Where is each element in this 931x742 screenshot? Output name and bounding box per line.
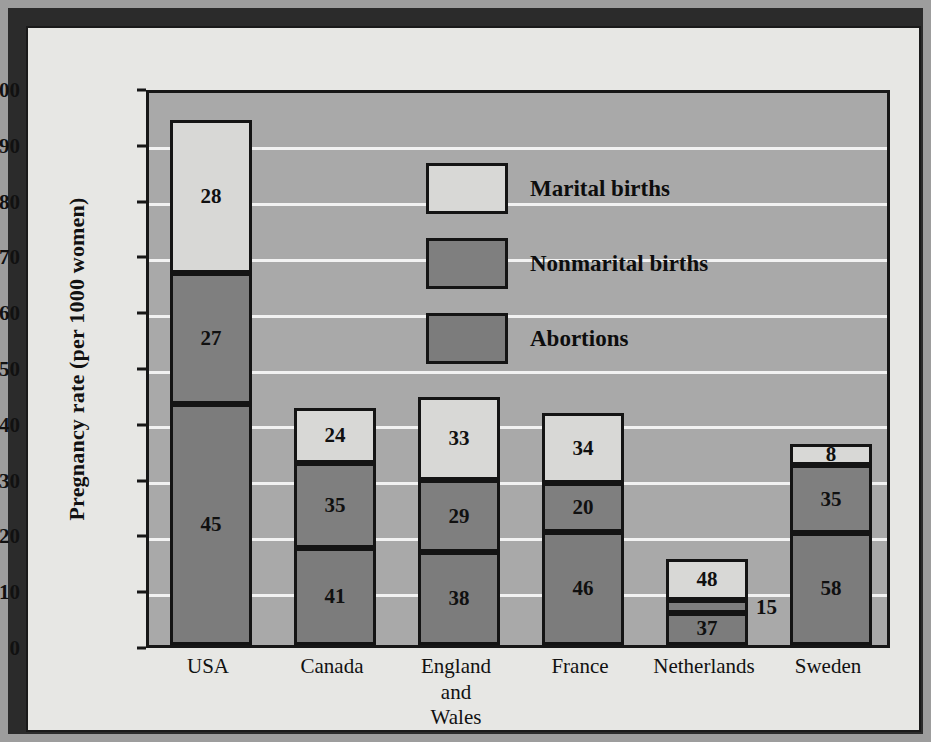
legend-label: Abortions — [530, 326, 628, 352]
y-tick-mark — [137, 200, 146, 203]
bar-segment-nonmarital[interactable]: 35 — [294, 463, 376, 548]
bar-segment-value: 20 — [573, 497, 594, 518]
bar-segment-marital[interactable]: 34 — [542, 413, 624, 483]
bar-segment-value: 41 — [325, 586, 346, 607]
bar-segment-marital[interactable]: 8 — [790, 444, 872, 465]
bar-segment-value: 24 — [325, 425, 346, 446]
bar-segment-value: 28 — [201, 186, 222, 207]
legend-label: Marital births — [530, 176, 670, 202]
legend-item-marital[interactable]: Marital births — [426, 161, 746, 216]
figure-paper: Pregnancy rate (per 1000 women) 01020304… — [26, 26, 921, 732]
y-tick-label: 70 — [0, 245, 20, 270]
bar-segment-value: 34 — [573, 438, 594, 459]
bar-segment-abortions[interactable]: 46 — [542, 532, 624, 645]
y-tick-mark — [137, 368, 146, 371]
bar-segment-value: 38 — [449, 588, 470, 609]
x-axis-label-line: France — [518, 654, 642, 680]
y-tick-label: 60 — [0, 301, 20, 326]
bar-group[interactable]: 58358 — [790, 87, 872, 645]
bar-segment-value: 46 — [573, 578, 594, 599]
x-axis-label: USA — [146, 654, 270, 680]
legend: Marital birthsNonmarital birthsAbortions — [426, 161, 746, 386]
y-tick-mark — [137, 256, 146, 259]
y-tick-mark — [137, 423, 146, 426]
bar-segment-value: 8 — [826, 444, 837, 465]
y-tick-mark — [137, 479, 146, 482]
y-tick-label: 50 — [0, 357, 20, 382]
bar-segment-marital[interactable]: 48 — [666, 559, 748, 600]
bar-segment-nonmarital[interactable]: 29 — [418, 480, 500, 551]
bar-segment-abortions[interactable]: 41 — [294, 548, 376, 645]
y-tick-label: 0 — [10, 636, 21, 661]
bar-segment-value: 35 — [821, 489, 842, 510]
legend-label: Nonmarital births — [530, 251, 708, 277]
plot-area: 45272841352438293346203415374858358 Mari… — [146, 90, 890, 648]
x-axis-label: EnglandandWales — [394, 654, 518, 731]
bar-segment-marital[interactable]: 33 — [418, 397, 500, 480]
y-tick-mark — [137, 144, 146, 147]
bar-segment-abortions[interactable]: 45 — [170, 404, 252, 645]
bar-segment-value: 37 — [697, 618, 718, 639]
bar-segment-abortions[interactable]: 58 — [790, 533, 872, 645]
bar-segment-value: 48 — [697, 569, 718, 590]
y-tick-label: 10 — [0, 580, 20, 605]
outer-frame: Pregnancy rate (per 1000 women) 01020304… — [8, 8, 923, 734]
y-tick-label: 40 — [0, 412, 20, 437]
x-axis-label: Sweden — [766, 654, 890, 680]
y-tick-mark — [137, 535, 146, 538]
y-tick-mark — [137, 647, 146, 650]
bar-segment-value: 58 — [821, 578, 842, 599]
x-axis-label-line: Sweden — [766, 654, 890, 680]
bar-group[interactable]: 452728 — [170, 87, 252, 645]
x-axis-label-line: England — [394, 654, 518, 680]
x-axis-label-line: Canada — [270, 654, 394, 680]
y-tick-mark — [137, 591, 146, 594]
legend-item-abortions[interactable]: Abortions — [426, 311, 746, 366]
legend-swatch-abortions — [426, 313, 508, 364]
x-axis-label: Canada — [270, 654, 394, 680]
y-axis-ticks: 0102030405060708090100 — [28, 28, 146, 648]
bar-group[interactable]: 413524 — [294, 87, 376, 645]
bar-segment-abortions[interactable]: 38 — [418, 552, 500, 645]
y-tick-label: 90 — [0, 133, 20, 158]
x-axis-label: France — [518, 654, 642, 680]
bar-segment-value: 29 — [449, 506, 470, 527]
x-axis-labels: USACanadaEnglandandWalesFranceNetherland… — [146, 654, 890, 742]
y-tick-label: 30 — [0, 468, 20, 493]
legend-swatch-marital — [426, 163, 508, 214]
bar-segment-value: 33 — [449, 428, 470, 449]
bar-segment-value-outside: 15 — [756, 597, 777, 618]
x-axis-label: Netherlands — [642, 654, 766, 680]
y-tick-label: 100 — [0, 78, 20, 103]
bar-segment-nonmarital[interactable]: 20 — [542, 483, 624, 532]
x-axis-label-line: Wales — [394, 705, 518, 731]
y-tick-label: 20 — [0, 524, 20, 549]
bar-segment-abortions[interactable]: 37 — [666, 613, 748, 645]
y-tick-label: 80 — [0, 189, 20, 214]
bar-segment-nonmarital[interactable] — [666, 600, 748, 613]
bar-segment-value: 35 — [325, 495, 346, 516]
bar-segment-value: 27 — [201, 328, 222, 349]
bar-segment-value: 45 — [201, 514, 222, 535]
bar-segment-nonmarital[interactable]: 27 — [170, 273, 252, 404]
legend-swatch-nonmarital — [426, 238, 508, 289]
bar-segment-nonmarital[interactable]: 35 — [790, 465, 872, 533]
figure-canvas: Pregnancy rate (per 1000 women) 01020304… — [0, 0, 931, 742]
bar-segment-marital[interactable]: 28 — [170, 120, 252, 273]
x-axis-label-line: and — [394, 680, 518, 706]
bar-segment-marital[interactable]: 24 — [294, 408, 376, 463]
x-axis-label-line: Netherlands — [642, 654, 766, 680]
x-axis-label-line: USA — [146, 654, 270, 680]
legend-item-nonmarital[interactable]: Nonmarital births — [426, 236, 746, 291]
y-tick-mark — [137, 312, 146, 315]
y-tick-mark — [137, 89, 146, 92]
